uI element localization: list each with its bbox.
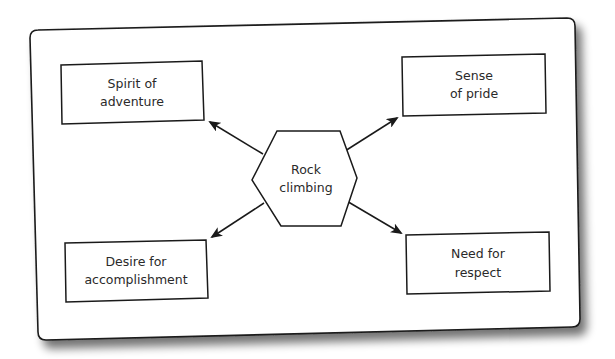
- diagram-canvas: Rock climbing Spirit of adventure Sense …: [0, 0, 615, 359]
- node-label-line1: Need for: [451, 246, 506, 261]
- node-label-line1: Spirit of: [108, 76, 157, 91]
- node-label-line2: respect: [455, 265, 502, 280]
- node-box: [61, 61, 204, 124]
- node-label-line2: of pride: [450, 86, 499, 101]
- node-box: [65, 240, 208, 302]
- node-label-line2: accomplishment: [84, 272, 187, 287]
- node-spirit-of-adventure: Spirit of adventure: [61, 61, 204, 124]
- node-box: [402, 54, 546, 116]
- center-label-line2: climbing: [279, 180, 332, 195]
- node-box: [406, 232, 550, 294]
- center-label-line1: Rock: [291, 162, 322, 177]
- node-label-line2: adventure: [100, 94, 164, 109]
- node-label-line1: Sense: [455, 68, 493, 83]
- node-desire-for-accomplishment: Desire for accomplishment: [65, 240, 208, 302]
- node-label-line1: Desire for: [105, 254, 167, 269]
- node-sense-of-pride: Sense of pride: [402, 54, 546, 116]
- node-need-for-respect: Need for respect: [406, 232, 550, 294]
